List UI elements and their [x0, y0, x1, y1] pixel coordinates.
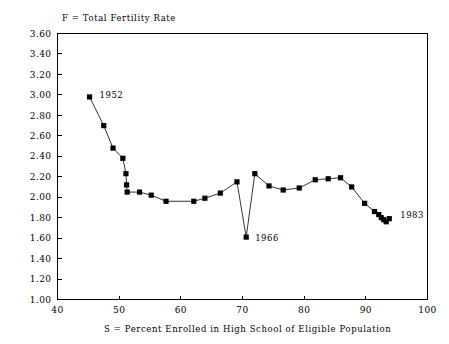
data-point-marker [349, 184, 354, 189]
data-point-marker [244, 234, 249, 239]
y-tick-label: 1.00 [30, 295, 52, 305]
y-tick-label: 2.60 [30, 131, 52, 141]
data-point-marker [362, 201, 367, 206]
data-point-marker [163, 199, 168, 204]
y-tick-label: 3.00 [30, 90, 52, 100]
point-annotation-label: 1966 [255, 233, 279, 243]
fertility-rate-chart: F = Total Fertility Rate 1.001.201.401.6… [0, 0, 449, 344]
point-annotation-label: 1952 [100, 90, 124, 100]
data-point-marker [120, 156, 125, 161]
data-point-marker [125, 189, 130, 194]
annotation-group: 195219661983 [100, 90, 424, 243]
x-tick-label: 60 [175, 305, 187, 315]
data-point-marker [297, 185, 302, 190]
series-marker-group [87, 94, 392, 239]
x-tick-label: 80 [298, 305, 310, 315]
y-tick-label: 1.40 [30, 254, 52, 264]
y-tick-label: 2.40 [30, 151, 52, 161]
point-annotation-label: 1983 [400, 210, 424, 220]
x-tick-label: 90 [360, 305, 372, 315]
x-tick-label: 50 [113, 305, 125, 315]
data-point-marker [326, 176, 331, 181]
series-line-group [90, 97, 390, 237]
y-tick-label: 1.80 [30, 213, 52, 223]
x-tick-label: 100 [418, 305, 436, 315]
data-point-marker [123, 171, 128, 176]
y-tick-label: 3.60 [30, 29, 52, 39]
data-point-marker [266, 183, 271, 188]
data-point-marker [313, 177, 318, 182]
data-point-marker [218, 191, 223, 196]
x-axis-tick-group: 405060708090100 [51, 296, 436, 315]
data-point-marker [149, 193, 154, 198]
y-tick-label: 2.80 [30, 111, 52, 121]
y-tick-label: 3.40 [30, 49, 52, 59]
plot-area: 1.001.201.401.601.802.002.202.402.602.80… [0, 0, 449, 344]
y-tick-label: 1.20 [30, 274, 52, 284]
data-point-marker [234, 179, 239, 184]
x-axis-title: S = Percent Enrolled in High School of E… [104, 324, 391, 334]
y-axis-tick-group: 1.001.201.401.601.802.002.202.402.602.80… [30, 29, 62, 305]
data-point-marker [137, 189, 142, 194]
data-point-marker [87, 94, 92, 99]
data-point-marker [252, 171, 257, 176]
plot-border [58, 34, 428, 300]
y-tick-label: 3.20 [30, 70, 52, 80]
y-tick-label: 2.00 [30, 192, 52, 202]
y-tick-label: 2.20 [30, 172, 52, 182]
data-point-marker [281, 187, 286, 192]
data-point-marker [387, 216, 392, 221]
data-point-marker [101, 123, 106, 128]
data-point-marker [124, 182, 129, 187]
x-tick-label: 70 [236, 305, 248, 315]
y-tick-label: 1.60 [30, 233, 52, 243]
axis-frame [58, 34, 428, 300]
data-point-marker [202, 196, 207, 201]
series-line [90, 97, 390, 237]
data-point-marker [191, 199, 196, 204]
data-point-marker [110, 145, 115, 150]
data-point-marker [338, 175, 343, 180]
x-tick-label: 40 [51, 305, 63, 315]
